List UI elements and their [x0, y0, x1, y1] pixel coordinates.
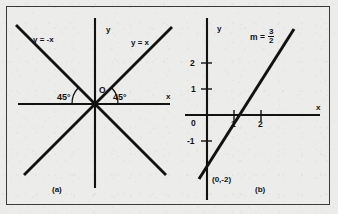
panel-b-x-axis-label: x [316, 104, 320, 112]
panel-a-label-y-equals-x: y = x [131, 39, 149, 47]
panel-a: y x y = -x y = x O 45° 45° (a) [0, 0, 176, 214]
panel-b-intercept-label: (0,-2) [212, 176, 231, 184]
panel-a-x-axis-label: x [166, 93, 170, 101]
panel-b: y x 2 1 0 -1 1 2 m = 3 2 (0,-2) (b) [176, 0, 338, 214]
panel-a-origin-label: O [99, 86, 106, 95]
figure-container: y x y = -x y = x O 45° 45° (a) [0, 0, 338, 214]
panel-a-line-y-equals-x [24, 27, 172, 175]
panel-a-caption: (a) [52, 186, 62, 194]
panel-a-angle-arc-left [72, 88, 78, 104]
panel-b-slope-numerator: 3 [268, 28, 274, 36]
panel-a-line-y-equals-neg-x [16, 25, 166, 175]
panel-b-y-axis-label: y [217, 25, 221, 33]
panel-a-graphics [0, 0, 176, 214]
panel-b-y-tick-label-0: 0 [191, 119, 196, 128]
panel-b-x-tick-label-1: 1 [231, 120, 236, 129]
panel-b-y-tick-label-neg1: -1 [187, 137, 195, 146]
panel-b-line-slope-three-halves [199, 29, 294, 179]
panel-b-slope-denominator: 2 [268, 36, 274, 45]
panel-a-label-y-equals-neg-x: y = -x [33, 36, 54, 44]
panel-a-y-axis-label: y [106, 26, 110, 34]
panel-b-slope-fraction: 3 2 [268, 28, 274, 46]
panel-b-y-tick-label-1: 1 [191, 85, 196, 94]
panel-a-angle-label-left: 45° [57, 93, 71, 102]
panel-b-slope-equals: = [260, 33, 265, 42]
panel-a-angle-label-right: 45° [113, 93, 127, 102]
panel-b-caption: (b) [255, 186, 265, 194]
panel-b-x-tick-label-2: 2 [258, 120, 263, 129]
panel-b-slope-label: m = 3 2 [250, 28, 274, 46]
panel-b-y-tick-label-2: 2 [190, 59, 195, 68]
panel-b-slope-symbol: m [250, 33, 258, 42]
